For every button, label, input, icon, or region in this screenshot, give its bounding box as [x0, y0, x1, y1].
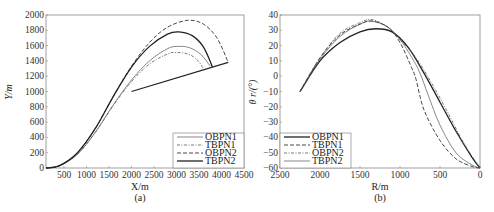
legend-item-tbpn2: TBPN2 [205, 155, 236, 166]
x-tick-label: 500 [433, 170, 448, 180]
x-tick-label: 2500 [145, 170, 164, 180]
y-tick-label: 30 [269, 25, 279, 35]
chart-b-ylabel: θ r/(°) [247, 79, 259, 104]
x-tick-label: 2000 [311, 170, 330, 180]
chart-b-y-axis: 403020100−10−20−30−40−50−60 [263, 10, 282, 173]
y-tick-label: 2000 [25, 10, 44, 20]
x-tick-label: 1000 [391, 170, 410, 180]
y-tick-label: 0 [39, 163, 44, 173]
y-tick-label: 1400 [25, 56, 44, 66]
y-tick-label: 400 [30, 132, 45, 142]
x-tick-label: 3000 [167, 170, 186, 180]
x-tick-label: 1000 [77, 170, 96, 180]
y-tick-label: 0 [273, 71, 278, 81]
x-tick-label: 1500 [100, 170, 119, 180]
x-tick-label: 1500 [351, 170, 370, 180]
x-tick-label: 0 [478, 170, 483, 180]
chart-b: 403020100−10−20−30−40−50−60 250020001500… [247, 10, 483, 204]
y-tick-label: 1600 [25, 41, 44, 51]
x-tick-label: 2000 [122, 170, 141, 180]
y-tick-label: 800 [30, 102, 45, 112]
y-tick-label: −10 [263, 87, 278, 97]
x-tick-label: 4500 [235, 170, 254, 180]
x-tick-label: 3500 [190, 170, 209, 180]
y-tick-label: 1000 [25, 87, 44, 97]
y-tick-label: −20 [263, 102, 278, 112]
y-tick-label: 1800 [25, 25, 44, 35]
y-tick-label: 10 [269, 56, 279, 66]
chart-a-legend: OBPN1TBPN1OBPN2TBPN2 [173, 131, 244, 168]
y-tick-label: 200 [30, 148, 45, 158]
y-tick-label: 40 [269, 10, 279, 20]
y-tick-label: −40 [263, 132, 278, 142]
series-target-line [132, 62, 229, 91]
legend-item-tbpn2: TBPN2 [312, 155, 343, 166]
chart-a-ylabel: Y/m [3, 84, 14, 100]
figure: 0200400600800100012001400160018002000 50… [0, 0, 494, 212]
y-tick-label: 600 [30, 117, 45, 127]
y-tick-label: −30 [263, 117, 278, 127]
x-tick-label: 500 [57, 170, 72, 180]
chart-b-legend: OBPN1TBPN1OBPN2TBPN2 [280, 131, 351, 168]
y-tick-label: 1200 [25, 71, 44, 81]
chart-a-caption: (a) [134, 192, 145, 204]
chart-b-xlabel: R/m [371, 181, 388, 192]
chart-a: 0200400600800100012001400160018002000 50… [3, 10, 254, 204]
chart-a-xlabel: X/m [131, 181, 149, 192]
x-tick-label: 4000 [212, 170, 231, 180]
chart-a-y-axis: 0200400600800100012001400160018002000 [25, 10, 48, 173]
chart-b-caption: (b) [374, 192, 386, 204]
x-tick-label: 2500 [271, 170, 290, 180]
y-tick-label: 20 [269, 41, 279, 51]
y-tick-label: −50 [263, 148, 278, 158]
